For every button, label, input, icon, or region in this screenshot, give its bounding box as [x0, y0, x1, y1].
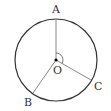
diagram-canvas: [0, 0, 111, 111]
label-o: O: [53, 65, 62, 76]
label-a: A: [52, 4, 60, 15]
label-c: C: [94, 81, 102, 92]
center-point-o: [54, 58, 57, 61]
label-b: B: [24, 97, 32, 108]
circle-diagram: A B C O: [0, 0, 111, 111]
